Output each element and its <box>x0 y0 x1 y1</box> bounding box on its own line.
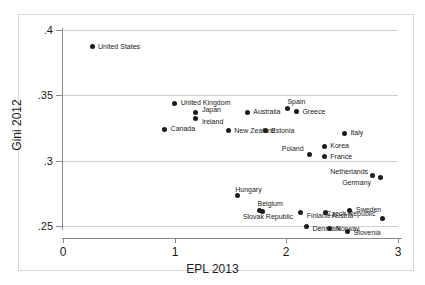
data-point-label: United States <box>98 43 140 50</box>
x-axis-line <box>62 238 402 239</box>
x-tick-label: 3 <box>383 246 413 258</box>
data-point[interactable] <box>162 127 167 132</box>
data-point[interactable] <box>226 128 231 133</box>
scatter-plot-figure: .25.3.35.4 0123 EPL 2013 Gini 2012 Unite… <box>0 0 425 285</box>
data-point[interactable] <box>294 109 299 114</box>
data-point-label: Belgium <box>258 200 283 207</box>
data-point[interactable] <box>370 173 375 178</box>
data-point-label: Poland <box>282 145 304 152</box>
data-point-label: Netherlands <box>330 168 368 175</box>
y-tick-mark <box>56 226 62 227</box>
data-point-label: Australia <box>253 108 280 115</box>
y-tick-label: .3 <box>44 156 53 167</box>
x-tick-mark <box>286 238 287 243</box>
data-point-label: Estonia <box>271 127 294 134</box>
data-point-label: Germany <box>342 179 371 186</box>
data-point-label: Japan <box>202 106 221 113</box>
data-point[interactable] <box>307 152 312 157</box>
y-tick-label: .35 <box>38 90 53 101</box>
data-point-label: France <box>330 153 352 160</box>
x-tick-mark <box>398 238 399 243</box>
data-point-label: Italy <box>350 129 363 136</box>
data-point-label: United Kingdom <box>181 99 231 106</box>
x-tick-label: 1 <box>160 246 190 258</box>
data-point[interactable] <box>172 101 177 106</box>
data-point-label: Slovenia <box>354 229 381 236</box>
data-point-label: Slovak Republic <box>243 213 293 220</box>
data-point[interactable] <box>380 216 385 221</box>
data-point[interactable] <box>304 224 309 229</box>
y-tick-label: .25 <box>38 221 53 232</box>
y-tick-mark <box>56 95 62 96</box>
data-point-label: New Zealand <box>234 127 275 134</box>
x-tick-label: 2 <box>271 246 301 258</box>
data-point[interactable] <box>263 128 268 133</box>
data-point-label: Korea <box>330 142 349 149</box>
x-tick-label: 0 <box>48 246 78 258</box>
data-point-label: Spain <box>287 98 305 105</box>
y-tick-mark <box>56 161 62 162</box>
x-tick-mark <box>175 238 176 243</box>
x-axis-title: EPL 2013 <box>0 262 425 276</box>
y-tick-label: .4 <box>44 25 53 36</box>
x-tick-mark <box>63 238 64 243</box>
data-point-label: Hungary <box>235 186 261 193</box>
data-point-label: Greece <box>302 108 325 115</box>
data-point[interactable] <box>245 110 250 115</box>
data-point[interactable] <box>345 229 350 234</box>
data-point[interactable] <box>285 106 290 111</box>
data-point[interactable] <box>322 144 327 149</box>
data-point[interactable] <box>342 131 347 136</box>
data-point-label: Ireland <box>202 118 223 125</box>
data-point-label: Canada <box>171 125 196 132</box>
y-axis-title: Gini 2012 <box>10 70 24 180</box>
data-point[interactable] <box>378 175 383 180</box>
y-tick-mark <box>56 30 62 31</box>
data-point-label: Czech Republic <box>326 210 375 217</box>
